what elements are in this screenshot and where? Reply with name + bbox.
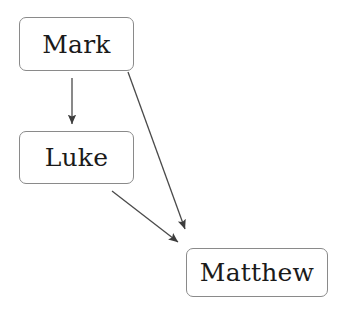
node-luke[interactable]: Luke bbox=[19, 131, 134, 184]
node-mark-label: Mark bbox=[42, 32, 110, 57]
node-luke-label: Luke bbox=[45, 145, 108, 170]
edge-mark-to-matthew bbox=[128, 72, 185, 229]
node-matthew-label: Matthew bbox=[200, 260, 314, 285]
edge-luke-to-matthew bbox=[112, 191, 178, 242]
node-matthew[interactable]: Matthew bbox=[186, 248, 328, 297]
node-mark[interactable]: Mark bbox=[19, 17, 134, 71]
diagram-canvas: Mark Luke Matthew bbox=[0, 0, 343, 317]
